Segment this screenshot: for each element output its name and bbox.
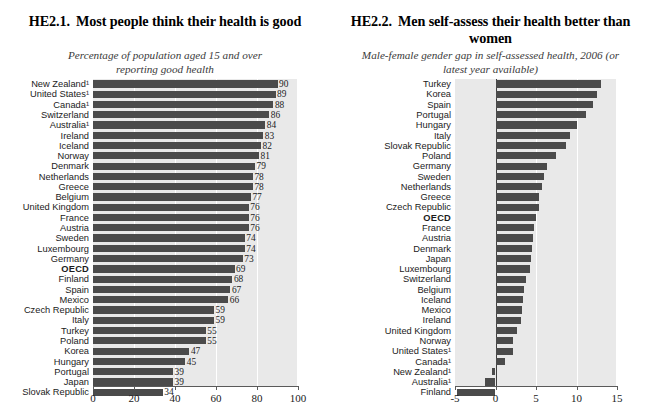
- category-label: Iceland: [421, 295, 451, 305]
- bar-row: Luxembourg 74: [93, 243, 298, 253]
- value-label: 69: [236, 264, 245, 274]
- value-label: 67: [232, 285, 241, 295]
- bar: [496, 337, 514, 344]
- value-label: 77: [252, 192, 261, 202]
- category-label: Mexico: [422, 305, 451, 315]
- bar: [93, 327, 206, 334]
- bar: [93, 173, 253, 180]
- bar-row: United States¹ 89: [93, 89, 298, 99]
- bar-row: Ireland: [455, 315, 617, 325]
- bar-row: Mexico: [455, 305, 617, 315]
- value-label: 81: [261, 151, 270, 161]
- value-label: 76: [250, 213, 259, 223]
- x-tick-label: 60: [211, 392, 222, 404]
- bar: [496, 152, 557, 159]
- bar: [93, 214, 249, 221]
- bar: [93, 142, 261, 149]
- bar: [496, 348, 513, 355]
- bar: [496, 163, 548, 170]
- chart-subtitle-he22: Male-female gender gap in self-assessed …: [330, 48, 651, 76]
- bar-row: Sweden: [455, 172, 617, 182]
- category-label: Ireland: [61, 131, 89, 141]
- bar-row: Canada¹ 88: [93, 100, 298, 110]
- category-label: Korea: [64, 346, 89, 356]
- value-label: 76: [250, 223, 259, 233]
- bar-row: Canada¹: [455, 356, 617, 366]
- bar: [93, 234, 245, 241]
- bar: [93, 337, 206, 344]
- bar-row: Portugal 39: [93, 367, 298, 377]
- bar: [496, 245, 533, 252]
- bar: [93, 255, 243, 262]
- value-label: 47: [191, 346, 200, 356]
- chart-title-text-he22: Men self-assess their health better than…: [398, 13, 630, 46]
- value-label: 82: [263, 141, 272, 151]
- category-label: Spain: [65, 285, 89, 295]
- bar-row: Mexico 66: [93, 295, 298, 305]
- value-label: 90: [279, 79, 288, 89]
- bar-row: Norway: [455, 336, 617, 346]
- bar-row: Czech Republic 59: [93, 305, 298, 315]
- bar: [93, 224, 249, 231]
- bar-row: Italy 59: [93, 315, 298, 325]
- value-label: 39: [175, 367, 184, 377]
- category-label: Italy: [72, 315, 89, 325]
- chart-title-he22: HE2.2.Men self-assess their health bette…: [330, 13, 651, 47]
- category-label: Slovak Republic: [22, 387, 89, 397]
- x-tick: [536, 386, 537, 390]
- chart-subtitle-he21: Percentage of population aged 15 and ove…: [0, 48, 330, 76]
- bar: [496, 286, 524, 293]
- category-label: Australia¹: [412, 377, 451, 387]
- category-label: United States¹: [392, 346, 451, 356]
- bar-row: Finland 68: [93, 274, 298, 284]
- category-label: Portugal: [54, 367, 89, 377]
- category-label: Norway: [419, 336, 451, 346]
- bar: [496, 317, 522, 324]
- bar: [93, 204, 249, 211]
- bar-row: Hungary: [455, 120, 617, 130]
- bar-row: Iceland: [455, 295, 617, 305]
- bar: [496, 91, 597, 98]
- category-label: Canada¹: [415, 357, 451, 367]
- bar: [93, 245, 245, 252]
- value-label: 66: [230, 295, 239, 305]
- category-label: Switzerland: [403, 274, 451, 284]
- bar: [93, 101, 273, 108]
- category-label: Hungary: [54, 357, 89, 367]
- bar: [93, 132, 263, 139]
- bar: [93, 368, 173, 375]
- category-label: Austria: [422, 233, 451, 243]
- category-label: Japan: [426, 254, 451, 264]
- bar-row: Germany: [455, 161, 617, 171]
- bar-row: Germany 73: [93, 254, 298, 264]
- bar: [496, 276, 527, 283]
- bar: [496, 142, 567, 149]
- bar-row: Czech Republic: [455, 202, 617, 212]
- bar: [93, 276, 232, 283]
- category-label: Netherlands: [401, 182, 451, 192]
- bar: [496, 111, 587, 118]
- bar-row: France: [455, 223, 617, 233]
- bar: [492, 368, 495, 375]
- category-label: United Kingdom: [385, 326, 451, 336]
- x-tick: [93, 386, 94, 390]
- bar: [496, 80, 601, 87]
- bar-row: Turkey: [455, 79, 617, 89]
- category-label: Hungary: [416, 120, 451, 130]
- bar: [496, 193, 540, 200]
- category-label: Japan: [64, 377, 89, 387]
- category-label: Portugal: [416, 110, 451, 120]
- bar-row: Ireland 83: [93, 130, 298, 140]
- chart-title-text-he21: Most people think their health is good: [76, 13, 301, 29]
- bar: [496, 183, 542, 190]
- category-label: Spain: [427, 100, 451, 110]
- bar: [93, 348, 189, 355]
- bar-row: Netherlands: [455, 182, 617, 192]
- category-label: Canada¹: [53, 100, 89, 110]
- bar-row: Japan: [455, 254, 617, 264]
- chart-number-he21: HE2.1.: [29, 13, 70, 29]
- bar-row: Poland 55: [93, 336, 298, 346]
- x-tick: [617, 386, 618, 390]
- bar: [457, 389, 495, 396]
- bar: [496, 265, 531, 272]
